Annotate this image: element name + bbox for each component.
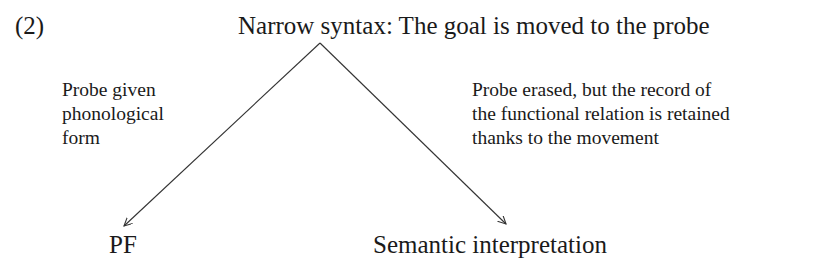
left-annotation-line-2: phonological (62, 102, 164, 126)
left-arrow (124, 43, 320, 226)
diagram-lines (0, 0, 814, 268)
left-annotation-line-3: form (62, 126, 100, 150)
pf-node-label: PF (109, 231, 137, 259)
semantic-node-label: Semantic interpretation (373, 231, 607, 259)
right-annotation-line-1: Probe erased, but the record of (472, 78, 711, 102)
root-node-label: Narrow syntax: The goal is moved to the … (238, 12, 710, 40)
right-annotation-line-3: thanks to the movement (472, 126, 659, 150)
right-annotation-line-2: the functional relation is retained (472, 102, 730, 126)
left-annotation-line-1: Probe given (62, 78, 156, 102)
example-number: (2) (15, 12, 44, 40)
